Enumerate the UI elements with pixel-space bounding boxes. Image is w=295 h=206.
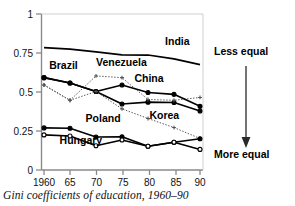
- data-point: [198, 137, 202, 141]
- xtick-label-85: 85: [170, 177, 182, 188]
- gini-line-chart: 0 0.25 0.5 0.75 1 1960 65 70 75 80 85 90: [0, 0, 295, 206]
- data-point: [172, 92, 176, 96]
- xtick-label-90: 90: [194, 177, 206, 188]
- data-point: [198, 147, 202, 151]
- ytick-label-0: 0: [27, 165, 33, 176]
- x-axis-ticks: [44, 170, 200, 175]
- data-point: [120, 107, 124, 111]
- series-label-korea: Korea: [149, 109, 179, 121]
- chart-caption: Gini coefficients of education, 1960–90: [3, 189, 189, 201]
- less-equal-label: Less equal: [214, 45, 268, 57]
- data-point: [146, 144, 150, 148]
- xtick-label-1960: 1960: [33, 177, 56, 188]
- chart-figure: 0 0.25 0.5 0.75 1 1960 65 70 75 80 85 90: [0, 0, 295, 206]
- ytick-label-1: 1: [27, 9, 33, 20]
- series-venezuela: [42, 74, 202, 102]
- series-label-china: China: [134, 72, 163, 84]
- series-label-venezuela: Venezuela: [96, 56, 147, 68]
- xtick-label-65: 65: [64, 177, 76, 188]
- ytick-label-025: 0.25: [14, 126, 34, 137]
- x-axis-tick-labels: 1960 65 70 75 80 85 90: [33, 177, 206, 188]
- y-axis-ticks: [36, 14, 42, 170]
- data-point: [146, 90, 150, 94]
- data-point: [172, 140, 176, 144]
- xtick-label-75: 75: [117, 177, 129, 188]
- data-point: [120, 83, 124, 87]
- equality-annotations: Less equal More equal: [214, 45, 270, 160]
- xtick-label-80: 80: [144, 177, 156, 188]
- ytick-label-05: 0.5: [19, 87, 33, 98]
- data-point: [198, 109, 202, 113]
- data-point: [68, 126, 72, 130]
- data-point: [42, 126, 46, 130]
- xtick-label-70: 70: [91, 177, 103, 188]
- data-point: [198, 104, 202, 108]
- series-label-india: India: [165, 35, 190, 47]
- series-label-brazil: Brazil: [49, 59, 78, 71]
- data-point: [42, 133, 46, 137]
- data-point: [42, 83, 46, 87]
- data-point: [198, 96, 202, 100]
- more-equal-label: More equal: [214, 148, 270, 160]
- data-point: [42, 76, 46, 80]
- data-point: [120, 102, 124, 106]
- data-point: [172, 126, 176, 130]
- series-line-venezuela: [44, 76, 200, 100]
- series-label-hungary: Hungary: [60, 134, 103, 146]
- data-point: [68, 81, 72, 85]
- series-label-poland: Poland: [86, 112, 121, 124]
- data-point: [120, 138, 124, 142]
- ytick-label-075: 0.75: [14, 48, 34, 59]
- y-axis-tick-labels: 0 0.25 0.5 0.75 1: [14, 9, 34, 176]
- down-arrow-icon: [242, 66, 251, 148]
